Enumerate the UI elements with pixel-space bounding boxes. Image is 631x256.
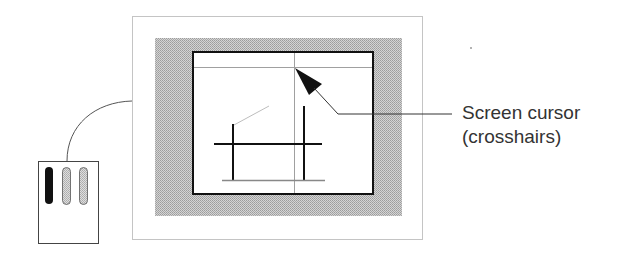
- callout-label-line2: (crosshairs): [462, 125, 580, 149]
- speck-dot: [470, 47, 472, 49]
- monitor-screen: [193, 52, 373, 194]
- mouse-button-left: [45, 167, 53, 204]
- mouse-cable: [67, 101, 132, 161]
- mouse-button-right: [80, 168, 88, 205]
- mouse-button-middle: [63, 168, 71, 205]
- callout-label-line1: Screen cursor: [462, 101, 580, 125]
- monitor: [133, 17, 423, 240]
- mouse: [39, 162, 99, 244]
- diagram-stage: Screen cursor (crosshairs): [0, 0, 631, 256]
- callout-label: Screen cursor (crosshairs): [462, 101, 580, 149]
